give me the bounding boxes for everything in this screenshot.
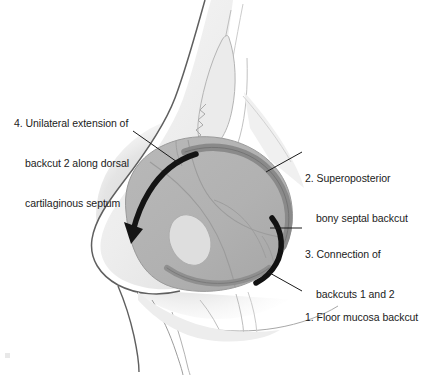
corner-mark — [5, 353, 10, 358]
callout-4-line-2: backcut 2 along dorsal — [14, 157, 129, 170]
callout-4-unilateral-extension: 4. Unilateral extension of backcut 2 alo… — [14, 91, 129, 236]
callout-1-floor-mucosa: 1. Floor mucosa backcut — [305, 285, 418, 351]
callout-1-line-1: 1. Floor mucosa backcut — [305, 311, 418, 324]
figure-root: 4. Unilateral extension of backcut 2 alo… — [0, 0, 429, 375]
callout-3-line-1: 3. Connection of — [305, 248, 395, 261]
callout-2-line-1: 2. Superoposterior — [305, 172, 408, 185]
callout-4-line-3: cartilaginous septum — [14, 197, 129, 210]
callout-4-line-1: 4. Unilateral extension of — [14, 117, 129, 130]
